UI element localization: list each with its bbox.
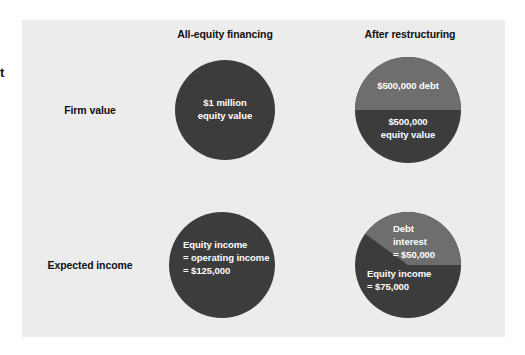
figure-root: t All-equity financing After restructuri… bbox=[0, 0, 525, 355]
column-header-all-equity-financing: All-equity financing bbox=[150, 28, 300, 40]
row-label-firm-value: Firm value bbox=[30, 104, 150, 116]
pie-label-equity-income: Equity income = $75,000 bbox=[367, 267, 462, 293]
cropped-figure-label: t bbox=[0, 66, 16, 96]
pie-label-firm-value-debt: $500,000 debt bbox=[355, 79, 461, 92]
pie-label-debt-interest: Debt interest = $50,000 bbox=[393, 222, 473, 261]
row-label-expected-income: Expected income bbox=[20, 259, 160, 271]
pie-label-firm-value-all-equity: $1 million equity value bbox=[175, 96, 275, 122]
pie-label-expected-income-all-equity: Equity income = operating income = $125,… bbox=[183, 238, 293, 277]
pie-label-firm-value-equity: $500,000 equity value bbox=[355, 115, 461, 141]
pie-firm-value-after-restructuring bbox=[355, 57, 461, 163]
column-header-after-restructuring: After restructuring bbox=[330, 28, 490, 40]
